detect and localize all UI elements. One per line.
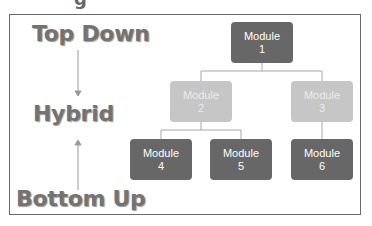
- module-4-number: 4: [158, 160, 164, 173]
- module-3-number: 3: [319, 102, 325, 115]
- module-2-number: 2: [198, 102, 204, 115]
- module-1-node: Module 1: [231, 22, 293, 63]
- module-4-name: Module: [143, 147, 179, 160]
- module-4-node: Module 4: [130, 139, 192, 180]
- module-6-name: Module: [304, 147, 340, 160]
- module-2-node: Module 2: [170, 81, 232, 122]
- module-5-node: Module 5: [210, 139, 272, 180]
- module-3-node: Module 3: [291, 81, 353, 122]
- module-1-name: Module: [244, 30, 280, 43]
- module-5-name: Module: [223, 147, 259, 160]
- module-2-name: Module: [183, 89, 219, 102]
- arrow-up-icon: [75, 140, 81, 190]
- module-3-name: Module: [304, 89, 340, 102]
- arrow-down-icon: [75, 50, 81, 96]
- module-6-number: 6: [319, 160, 325, 173]
- module-1-number: 1: [259, 43, 265, 56]
- module-5-number: 5: [238, 160, 244, 173]
- module-6-node: Module 6: [291, 139, 353, 180]
